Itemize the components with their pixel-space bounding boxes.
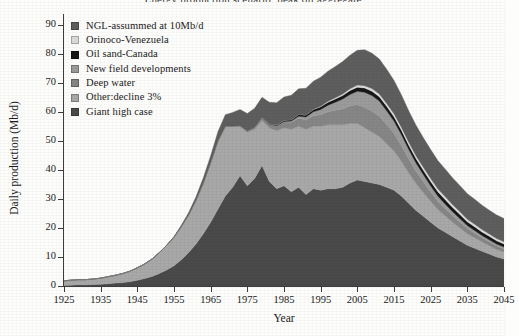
x-tick-mark <box>357 287 358 292</box>
y-tick-label: 70 <box>10 77 56 88</box>
y-tick-label: 90 <box>10 19 56 30</box>
y-tick-label: 80 <box>10 48 56 59</box>
legend-swatch-icon <box>71 79 79 87</box>
legend-item[interactable]: Oil sand-Canada <box>71 48 204 62</box>
legend-swatch-icon <box>71 36 79 44</box>
x-tick-mark <box>321 287 322 292</box>
legend-item-label: NGL-assummed at 10Mb/d <box>86 21 204 32</box>
x-tick-mark <box>431 287 432 292</box>
legend-item[interactable]: Other:decline 3% <box>71 90 204 104</box>
legend-item-label: Giant high case <box>86 107 153 118</box>
x-tick-mark <box>211 287 212 292</box>
x-tick-mark <box>467 287 468 292</box>
x-axis-label: Year <box>64 312 504 324</box>
legend-item[interactable]: Giant high case <box>71 105 204 119</box>
x-tick-mark <box>101 287 102 292</box>
y-tick-label: 0 <box>10 280 56 291</box>
legend-swatch-icon <box>71 65 79 73</box>
legend-swatch-icon <box>71 108 79 116</box>
y-tick-label: 20 <box>10 222 56 233</box>
x-tick-mark <box>247 287 248 292</box>
y-tick-label: 40 <box>10 164 56 175</box>
legend-item-label: Orinoco-Venezuela <box>86 35 169 46</box>
x-tick-mark <box>504 287 505 292</box>
legend-swatch-icon <box>71 94 79 102</box>
legend-item[interactable]: New field developments <box>71 62 204 76</box>
y-tick-label: 30 <box>10 193 56 204</box>
y-tick-label: 60 <box>10 106 56 117</box>
x-tick-mark <box>174 287 175 292</box>
x-tick-label: 2045 <box>481 294 519 306</box>
figure-title: Energy production scenario: peak oil agg… <box>0 0 506 2</box>
x-tick-mark <box>284 287 285 292</box>
legend-swatch-icon <box>71 51 79 59</box>
legend-item-label: Other:decline 3% <box>86 92 161 103</box>
legend-item-label: Deep water <box>86 78 135 89</box>
y-tick-label: 10 <box>10 251 56 262</box>
legend-item[interactable]: NGL-assummed at 10Mb/d <box>71 19 204 33</box>
legend-item-label: Oil sand-Canada <box>86 49 158 60</box>
legend-item[interactable]: Deep water <box>71 76 204 90</box>
legend-item-label: New field developments <box>86 64 191 75</box>
legend-swatch-icon <box>71 22 79 30</box>
y-tick-label: 50 <box>10 135 56 146</box>
x-tick-mark <box>137 287 138 292</box>
legend-item[interactable]: Orinoco-Venezuela <box>71 33 204 47</box>
legend: NGL-assummed at 10Mb/dOrinoco-VenezuelaO… <box>71 19 204 119</box>
x-tick-mark <box>394 287 395 292</box>
x-tick-mark <box>64 287 65 292</box>
